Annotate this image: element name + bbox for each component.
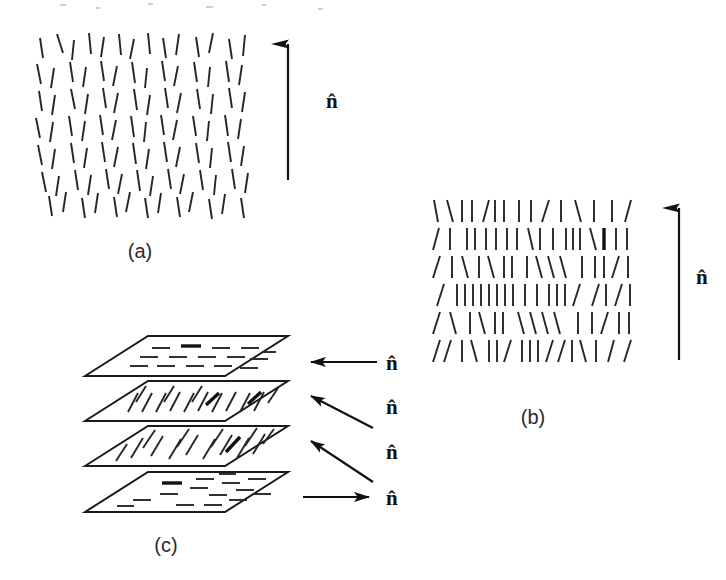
panel-c-plane-4-molecules (117, 474, 271, 506)
panel-a-nematic: n̂ (a) (36, 33, 338, 262)
panel-b-layer-6 (433, 340, 631, 362)
panel-a-molecules (36, 33, 248, 219)
panel-a-caption: (a) (128, 240, 152, 262)
panel-b-layer-3 (433, 256, 628, 278)
panel-c-director-label-1: n̂ (386, 351, 398, 375)
panel-b-caption: (b) (521, 406, 545, 428)
panel-c-director-arrow-2 (311, 396, 373, 428)
panel-a-director-label: n̂ (326, 89, 338, 113)
panel-c-plane-2 (85, 381, 288, 421)
figure-canvas: n̂ (a) (0, 0, 726, 580)
panel-c-director-label-2: n̂ (386, 395, 398, 419)
panel-b-layer-2 (433, 228, 627, 250)
panel-b-layer-5 (433, 312, 629, 334)
scan-artifacts (60, 3, 323, 10)
panel-c-plane-3-molecules (116, 428, 274, 461)
panel-c-director-label-3: n̂ (386, 440, 398, 464)
panel-c-plane-4 (85, 472, 288, 512)
panel-c-director-label-4: n̂ (386, 486, 398, 510)
panel-c-plane-2-molecules (128, 386, 278, 412)
panel-c-cholesteric: n̂ n̂ n̂ n̂ (c) (85, 336, 398, 556)
panel-c-plane-3 (85, 426, 288, 466)
panel-c-plane-1 (85, 336, 288, 376)
panel-b-director-label: n̂ (696, 265, 708, 289)
panel-b-layer-1 (434, 200, 631, 222)
panel-b-smectic: n̂ (b) (433, 200, 708, 428)
panel-c-director-arrow-3 (311, 441, 373, 482)
panel-c-caption: (c) (154, 534, 177, 556)
figure-root: n̂ (a) (0, 0, 726, 580)
panel-b-layer-4 (437, 284, 630, 306)
